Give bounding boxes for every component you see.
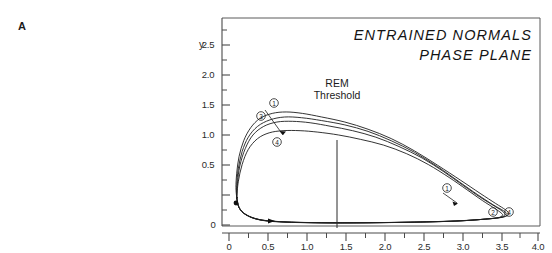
y-tick-1-5: 1.5	[202, 99, 214, 110]
marker-upper-4-label: 4	[275, 139, 279, 146]
trajectory-curves	[236, 112, 509, 223]
marker-right-4-label: 4	[507, 209, 511, 216]
chart-title-line1: ENTRAINED NORMALS	[354, 27, 532, 43]
marker-upper-1-label: 1	[272, 100, 276, 107]
y-tick-2-5: 2.5	[202, 39, 214, 50]
x-tick-0-5: 0.5	[262, 241, 274, 252]
marker-mid-1-label: 1	[445, 185, 449, 192]
x-tick-4-0: 4.0	[532, 241, 544, 252]
x-tick-2-5: 2.5	[418, 241, 430, 252]
x-tick-0: 0	[227, 241, 232, 252]
trajectory-2	[237, 117, 508, 223]
x-axis: 0 0.5 1.0 1.5 2.0 2.5 3.0 3.5 4.0	[222, 233, 544, 252]
marker-right-2-label: 2	[491, 209, 495, 216]
marker-right-4: 4	[505, 208, 514, 217]
y-axis: y 2.5 2.0 1.5 1.0 0.5 0	[199, 18, 230, 230]
figure-panel-a: A y 2.5 2.0 1.5	[0, 0, 552, 253]
panel-label: A	[18, 20, 26, 32]
y-tick-0-5: 0.5	[202, 159, 214, 170]
start-point-dot	[234, 201, 239, 206]
marker-upper-3-label: 3	[259, 113, 263, 120]
marker-upper-4: 4	[273, 138, 282, 147]
chart-title-line2: PHASE PLANE	[419, 47, 532, 63]
trajectory-1	[236, 112, 509, 223]
trajectory-3	[237, 121, 505, 223]
rem-threshold-annotation: REM Threshold	[314, 77, 361, 228]
x-tick-3-0: 3.0	[457, 241, 469, 252]
bottom-flow-arrow	[268, 219, 275, 224]
y-tick-2-0: 2.0	[202, 69, 214, 80]
x-tick-1-5: 1.5	[340, 241, 352, 252]
x-tick-1-0: 1.0	[301, 241, 313, 252]
y-tick-0: 0	[211, 219, 216, 230]
x-tick-2-0: 2.0	[379, 241, 391, 252]
y-tick-1-0: 1.0	[202, 129, 214, 140]
phase-plane-chart: y 2.5 2.0 1.5 1.0 0.5 0	[0, 0, 552, 253]
marker-mid-1: 1	[443, 184, 458, 206]
marker-upper-1: 1	[270, 99, 279, 108]
x-tick-3-5: 3.5	[496, 241, 508, 252]
rem-threshold-label-line2: Threshold	[314, 89, 361, 101]
marker-right-2: 2	[489, 208, 498, 217]
rem-threshold-label-line1: REM	[325, 77, 348, 89]
